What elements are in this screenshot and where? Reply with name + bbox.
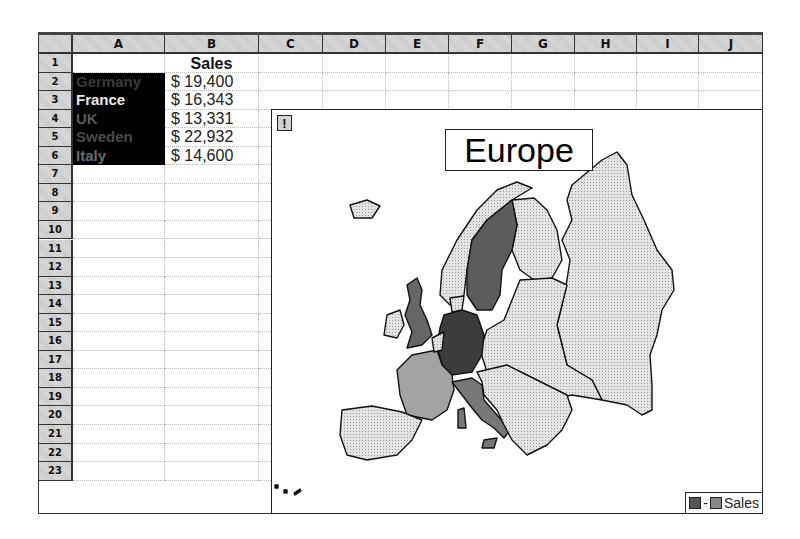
row-header-14[interactable]: 14 <box>39 295 73 314</box>
row-header-5[interactable]: 5 <box>39 128 73 147</box>
europe-map-chart[interactable]: ! <box>271 109 763 514</box>
row-header-6[interactable]: 6 <box>39 147 73 166</box>
cell-A2[interactable]: Germany <box>73 73 165 92</box>
cell-E3[interactable] <box>386 91 449 110</box>
cell-F1[interactable] <box>449 54 512 73</box>
cell-J1[interactable] <box>699 54 763 73</box>
column-header-H[interactable]: H <box>575 35 637 54</box>
cell-F3[interactable] <box>449 91 512 110</box>
row-header-9[interactable]: 9 <box>39 202 73 221</box>
cell-I3[interactable] <box>637 91 699 110</box>
cell-A6[interactable]: Italy <box>73 147 165 166</box>
row-header-3[interactable]: 3 <box>39 91 73 110</box>
cell-B1[interactable]: Sales <box>165 54 259 73</box>
cell-A23[interactable] <box>73 462 165 481</box>
column-header-A[interactable]: A <box>73 35 165 54</box>
row-header-21[interactable]: 21 <box>39 425 73 444</box>
cell-A8[interactable] <box>73 184 165 203</box>
cell-A11[interactable] <box>73 240 165 259</box>
cell-B4[interactable]: $ 13,331 <box>165 110 259 129</box>
cell-B16[interactable] <box>165 332 259 351</box>
row-header-7[interactable]: 7 <box>39 165 73 184</box>
cell-B11[interactable] <box>165 240 259 259</box>
cell-B8[interactable] <box>165 184 259 203</box>
cell-B3[interactable]: $ 16,343 <box>165 91 259 110</box>
cell-C1[interactable] <box>259 54 323 73</box>
cell-E1[interactable] <box>386 54 449 73</box>
cell-J2[interactable] <box>699 73 763 92</box>
cell-A20[interactable] <box>73 406 165 425</box>
row-header-18[interactable]: 18 <box>39 369 73 388</box>
cell-E2[interactable] <box>386 73 449 92</box>
row-header-23[interactable]: 23 <box>39 462 73 481</box>
row-header-2[interactable]: 2 <box>39 73 73 92</box>
cell-B19[interactable] <box>165 388 259 407</box>
row-header-16[interactable]: 16 <box>39 332 73 351</box>
cell-B22[interactable] <box>165 444 259 463</box>
cell-A9[interactable] <box>73 202 165 221</box>
map-legend[interactable]: - Sales <box>685 492 763 514</box>
cell-D1[interactable] <box>323 54 386 73</box>
cell-H2[interactable] <box>575 73 637 92</box>
cell-A1[interactable] <box>73 54 165 73</box>
column-header-C[interactable]: C <box>259 35 323 54</box>
column-header-E[interactable]: E <box>386 35 449 54</box>
cell-H1[interactable] <box>575 54 637 73</box>
cell-B9[interactable] <box>165 202 259 221</box>
cell-C3[interactable] <box>259 91 323 110</box>
cell-B15[interactable] <box>165 314 259 333</box>
cell-A17[interactable] <box>73 351 165 370</box>
cell-G2[interactable] <box>512 73 575 92</box>
cell-A15[interactable] <box>73 314 165 333</box>
row-header-20[interactable]: 20 <box>39 406 73 425</box>
cell-B17[interactable] <box>165 351 259 370</box>
cell-C2[interactable] <box>259 73 323 92</box>
cell-I2[interactable] <box>637 73 699 92</box>
cell-B5[interactable]: $ 22,932 <box>165 128 259 147</box>
cell-G3[interactable] <box>512 91 575 110</box>
column-header-D[interactable]: D <box>323 35 386 54</box>
cell-B21[interactable] <box>165 425 259 444</box>
cell-B6[interactable]: $ 14,600 <box>165 147 259 166</box>
cell-A12[interactable] <box>73 258 165 277</box>
cell-H3[interactable] <box>575 91 637 110</box>
cell-B14[interactable] <box>165 295 259 314</box>
cell-B18[interactable] <box>165 369 259 388</box>
cell-B2[interactable]: $ 19,400 <box>165 73 259 92</box>
row-header-10[interactable]: 10 <box>39 221 73 240</box>
map-title[interactable]: Europe <box>445 129 593 171</box>
cell-A18[interactable] <box>73 369 165 388</box>
cell-A10[interactable] <box>73 221 165 240</box>
row-header-22[interactable]: 22 <box>39 444 73 463</box>
cell-A3[interactable]: France <box>73 91 165 110</box>
column-header-I[interactable]: I <box>637 35 699 54</box>
cell-B13[interactable] <box>165 277 259 296</box>
cell-B12[interactable] <box>165 258 259 277</box>
row-header-11[interactable]: 11 <box>39 240 73 259</box>
column-header-B[interactable]: B <box>165 35 259 54</box>
cell-B23[interactable] <box>165 462 259 481</box>
cell-A13[interactable] <box>73 277 165 296</box>
column-header-G[interactable]: G <box>512 35 575 54</box>
row-header-8[interactable]: 8 <box>39 184 73 203</box>
cell-D3[interactable] <box>323 91 386 110</box>
cell-B10[interactable] <box>165 221 259 240</box>
row-header-4[interactable]: 4 <box>39 110 73 129</box>
cell-B7[interactable] <box>165 165 259 184</box>
row-header-15[interactable]: 15 <box>39 314 73 333</box>
cell-G1[interactable] <box>512 54 575 73</box>
row-header-13[interactable]: 13 <box>39 277 73 296</box>
row-header-17[interactable]: 17 <box>39 351 73 370</box>
cell-B20[interactable] <box>165 406 259 425</box>
column-header-J[interactable]: J <box>699 35 763 54</box>
cell-A19[interactable] <box>73 388 165 407</box>
cell-A22[interactable] <box>73 444 165 463</box>
row-header-12[interactable]: 12 <box>39 258 73 277</box>
cell-A5[interactable]: Sweden <box>73 128 165 147</box>
cell-D2[interactable] <box>323 73 386 92</box>
cell-I1[interactable] <box>637 54 699 73</box>
cell-A7[interactable] <box>73 165 165 184</box>
column-header-F[interactable]: F <box>449 35 512 54</box>
select-all-corner[interactable] <box>39 35 73 54</box>
cell-A14[interactable] <box>73 295 165 314</box>
